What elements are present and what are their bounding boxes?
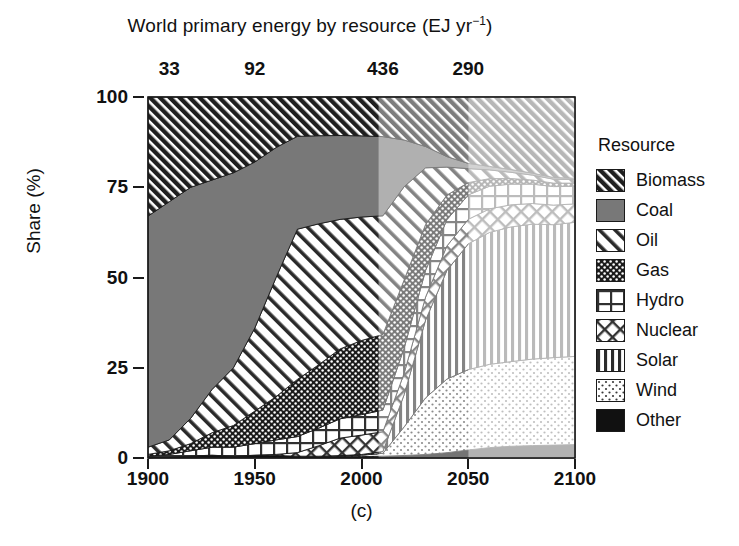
shading-projection-near <box>379 97 469 458</box>
legend-label-oil: Oil <box>636 231 658 249</box>
legend-item-nuclear[interactable]: Nuclear <box>596 315 739 345</box>
legend-item-oil[interactable]: Oil <box>596 225 739 255</box>
legend-item-hydro[interactable]: Hydro <box>596 285 739 315</box>
legend-item-wind[interactable]: Wind <box>596 375 739 405</box>
legend-label-biomass: Biomass <box>636 171 705 189</box>
legend-swatch-hydro <box>596 289 625 312</box>
y-tick-mark <box>133 457 144 459</box>
shading-projection-far <box>468 97 575 458</box>
legend-swatch-solar <box>596 349 625 372</box>
legend-label-other: Other <box>636 411 681 429</box>
legend-swatch-nuclear <box>596 319 625 342</box>
legend-label-hydro: Hydro <box>636 291 684 309</box>
legend: Resource BiomassCoalOilGasHydroNuclearSo… <box>596 135 739 435</box>
legend-item-coal[interactable]: Coal <box>596 195 739 225</box>
legend-item-gas[interactable]: Gas <box>596 255 739 285</box>
legend-swatch-other <box>596 409 625 432</box>
legend-label-gas: Gas <box>636 261 669 279</box>
y-tick-mark <box>133 277 144 279</box>
legend-swatch-gas <box>596 259 625 282</box>
legend-swatch-biomass <box>596 169 625 192</box>
y-tick-mark <box>133 367 144 369</box>
legend-entries: BiomassCoalOilGasHydroNuclearSolarWindOt… <box>596 165 739 435</box>
chart-figure: World primary energy by resource (EJ yr−… <box>0 0 739 546</box>
legend-swatch-oil <box>596 229 625 252</box>
legend-item-biomass[interactable]: Biomass <box>596 165 739 195</box>
legend-label-nuclear: Nuclear <box>636 321 698 339</box>
legend-swatch-wind <box>596 379 625 402</box>
legend-swatch-coal <box>596 199 625 222</box>
legend-label-solar: Solar <box>636 351 678 369</box>
y-tick-mark <box>133 186 144 188</box>
y-tick-mark <box>133 96 144 98</box>
legend-label-coal: Coal <box>636 201 673 219</box>
legend-item-other[interactable]: Other <box>596 405 739 435</box>
legend-label-wind: Wind <box>636 381 677 399</box>
legend-item-solar[interactable]: Solar <box>596 345 739 375</box>
legend-title: Resource <box>598 135 739 156</box>
